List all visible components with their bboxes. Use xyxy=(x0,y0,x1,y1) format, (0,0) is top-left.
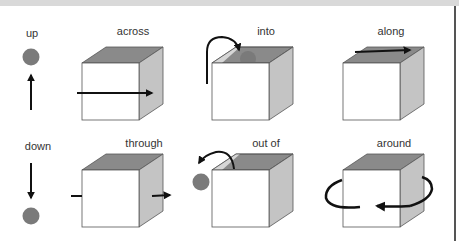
through-cube xyxy=(71,154,170,227)
up-figure xyxy=(23,49,40,111)
ball-icon xyxy=(193,174,210,191)
ball-icon xyxy=(23,208,40,225)
along-cube xyxy=(343,47,424,120)
out-of-cube xyxy=(193,152,294,227)
prepositions-diagram xyxy=(0,0,459,241)
down-figure xyxy=(23,163,40,225)
arrow-through-head-icon xyxy=(152,195,170,196)
ball-icon xyxy=(23,49,40,66)
into-cube xyxy=(207,37,293,120)
across-cube xyxy=(77,47,163,120)
around-cube xyxy=(326,154,432,227)
